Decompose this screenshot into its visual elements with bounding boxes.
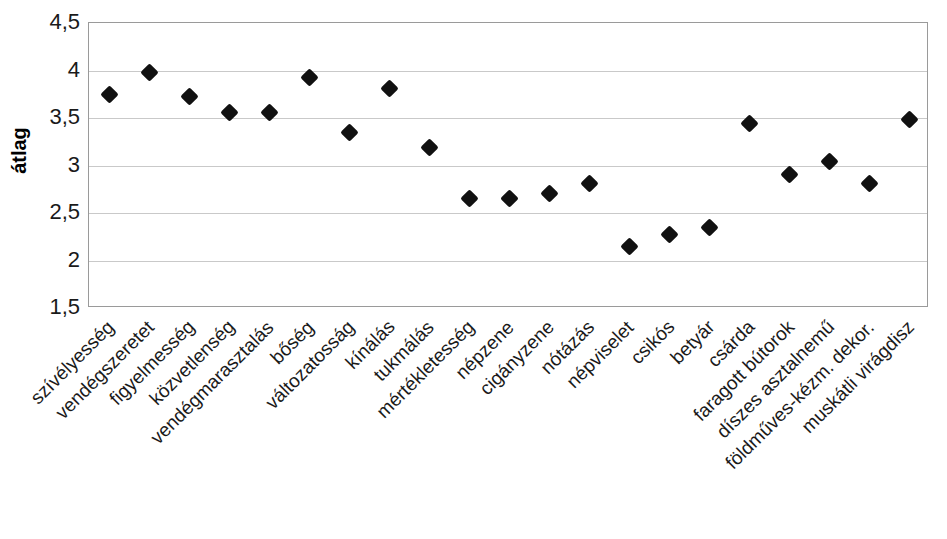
gridline bbox=[89, 213, 927, 214]
x-tick-label: betyár bbox=[667, 317, 718, 368]
y-tick-label: 3 bbox=[20, 154, 80, 176]
data-point-marker bbox=[380, 79, 398, 97]
x-tick-label: népviselet bbox=[563, 317, 638, 392]
gridline bbox=[89, 118, 927, 119]
data-point-marker bbox=[460, 190, 478, 208]
x-tick-label: nótázás bbox=[537, 317, 598, 378]
data-point-marker bbox=[580, 174, 598, 192]
data-point-marker bbox=[140, 63, 158, 81]
x-tick-label: tukmálás bbox=[370, 317, 438, 385]
gridline bbox=[89, 71, 927, 72]
x-tick-label: muskátli virágdisz bbox=[798, 317, 918, 437]
x-tick-label: díszes asztalnemű bbox=[713, 317, 838, 442]
data-point-marker bbox=[100, 85, 118, 103]
x-tick-label: változatosság bbox=[262, 317, 358, 413]
x-tick-label: faragott bútorok bbox=[690, 317, 798, 425]
data-point-marker bbox=[660, 226, 678, 244]
gridline bbox=[89, 261, 927, 262]
x-tick-label: vendégszeretet bbox=[52, 317, 158, 423]
x-tick-label: vendégmarasztalás bbox=[147, 317, 278, 448]
x-tick-label: közvetlenség bbox=[146, 317, 239, 410]
x-tick-label: földműves-kézm. dekor. bbox=[722, 317, 878, 473]
y-tick-label: 4,5 bbox=[20, 11, 80, 33]
data-point-marker bbox=[340, 123, 358, 141]
x-tick-label: cigányzene bbox=[476, 317, 558, 399]
y-tick-label: 2,5 bbox=[20, 201, 80, 223]
x-tick-label: figyelmesség bbox=[106, 317, 199, 410]
x-tick-label: kínálás bbox=[342, 317, 399, 374]
scatter-chart: átlag 4,543,532,521,5 szívélyességvendég… bbox=[0, 0, 947, 539]
data-point-marker bbox=[780, 165, 798, 183]
x-tick-label: népzene bbox=[452, 317, 518, 383]
y-tick-label: 4 bbox=[20, 59, 80, 81]
data-point-marker bbox=[820, 152, 838, 170]
x-tick-label: szívélyesség bbox=[27, 317, 118, 408]
plot-area bbox=[88, 22, 928, 307]
y-tick-label: 3,5 bbox=[20, 106, 80, 128]
data-point-marker bbox=[860, 174, 878, 192]
data-point-marker bbox=[540, 184, 558, 202]
data-point-marker bbox=[420, 138, 438, 156]
y-axis-tick-labels: 4,543,532,521,5 bbox=[18, 0, 80, 330]
x-tick-label: bőség bbox=[267, 317, 318, 368]
data-point-marker bbox=[620, 237, 638, 255]
data-point-marker bbox=[900, 111, 918, 129]
x-tick-label: mértékletesség bbox=[373, 317, 478, 422]
x-tick-label: csárda bbox=[704, 317, 758, 371]
x-tick-label: csikós bbox=[627, 317, 678, 368]
y-tick-label: 2 bbox=[20, 249, 80, 271]
data-point-marker bbox=[500, 190, 518, 208]
data-point-marker bbox=[700, 218, 718, 236]
data-point-marker bbox=[180, 87, 198, 105]
y-tick-label: 1,5 bbox=[20, 296, 80, 318]
gridline bbox=[89, 166, 927, 167]
